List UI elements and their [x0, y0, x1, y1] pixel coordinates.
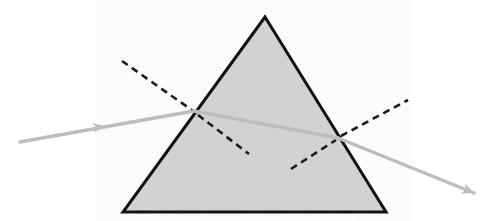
- prism-refraction-diagram: [0, 0, 496, 221]
- diagram-canvas: [0, 0, 496, 221]
